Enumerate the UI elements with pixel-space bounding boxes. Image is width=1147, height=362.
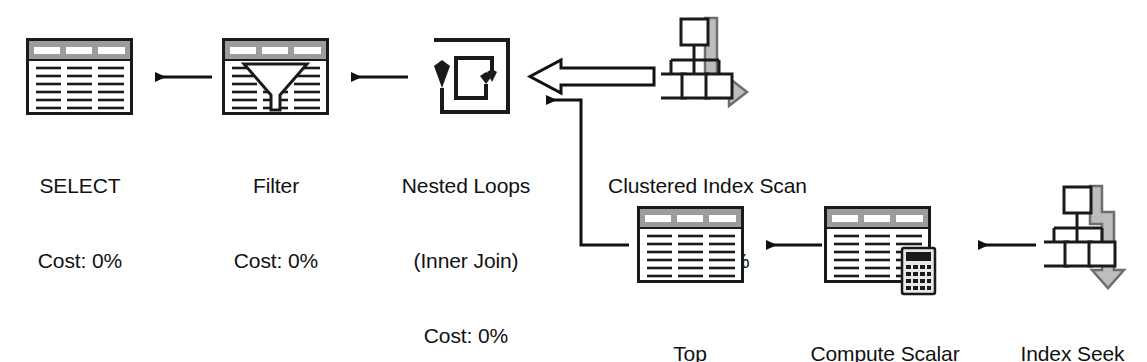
node-cost-nested-loops: Cost: 0% xyxy=(385,323,547,348)
plan-node-nested-loops[interactable]: Nested Loops (Inner Join) Cost: 0% xyxy=(385,0,547,205)
plan-node-label-nested-loops: Nested Loops (Inner Join) Cost: 0% xyxy=(385,123,547,362)
node-cost-select: Cost: 0% xyxy=(4,248,156,273)
node-name-index-seek: Index Seek xyxy=(998,341,1147,362)
node-name-compute-scalar: Compute Scalar xyxy=(794,341,976,362)
execution-plan-diagram: SELECT Cost: 0% Filter Cost: 0% xyxy=(0,0,1147,362)
plan-node-label-filter: Filter Cost: 0% xyxy=(200,123,352,323)
plan-node-label-select: SELECT Cost: 0% xyxy=(4,123,156,323)
plan-node-select[interactable]: SELECT Cost: 0% xyxy=(0,0,160,180)
node-name-top: Top xyxy=(614,341,766,362)
index-seek-icon xyxy=(1044,182,1138,292)
clustered-index-scan-icon xyxy=(661,14,753,116)
node-name-filter: Filter xyxy=(200,173,352,198)
compute-scalar-icon xyxy=(824,206,946,298)
plan-node-filter[interactable]: Filter Cost: 0% xyxy=(196,0,356,180)
node-name-select: SELECT xyxy=(4,173,156,198)
plan-node-clustered-index-scan[interactable]: Clustered Index Scan Cost: 2% xyxy=(586,0,829,180)
plan-node-label-compute-scalar: Compute Scalar Cost: 0% xyxy=(794,291,976,362)
plan-node-index-seek[interactable]: Index Seek Cost: 98% xyxy=(998,170,1147,350)
node-name-nested-loops: Nested Loops xyxy=(385,173,547,198)
nested-loops-icon xyxy=(420,36,512,116)
node-cost-filter: Cost: 0% xyxy=(200,248,352,273)
filter-funnel-icon xyxy=(222,38,329,115)
calculator-icon xyxy=(902,248,935,294)
plan-node-compute-scalar[interactable]: Compute Scalar Cost: 0% xyxy=(794,190,976,350)
table-result-icon xyxy=(637,206,744,283)
plan-node-label-top: Top Cost: 0% xyxy=(614,291,766,362)
node-subtitle-nested-loops: (Inner Join) xyxy=(385,248,547,273)
table-result-icon xyxy=(26,38,133,115)
plan-node-label-index-seek: Index Seek Cost: 98% xyxy=(998,291,1147,362)
plan-node-top[interactable]: Top Cost: 0% xyxy=(614,190,766,350)
